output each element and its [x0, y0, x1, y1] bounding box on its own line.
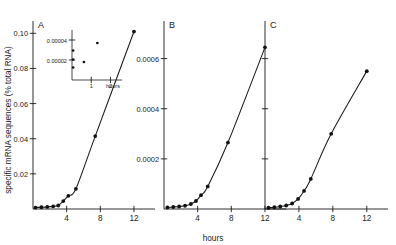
x-axis-title: hours [203, 234, 223, 243]
data-point [329, 132, 333, 136]
x-tick-label: 12 [260, 214, 270, 223]
y-tick-label: 0.08 [14, 64, 28, 73]
data-point [206, 185, 210, 189]
data-point [171, 205, 175, 209]
data-point [51, 204, 55, 208]
data-point [183, 204, 187, 208]
data-point [72, 58, 75, 61]
panel-a-data-points [34, 30, 136, 210]
x-tick-label: 1 [90, 83, 93, 89]
data-point [61, 199, 65, 203]
x-tick-label: 4 [64, 214, 69, 223]
panel-a-inset: 0.000020.00004 12 hours [47, 30, 122, 89]
panel-c-curve [268, 71, 366, 208]
data-point [45, 205, 49, 209]
x-tick-label: 4 [297, 214, 302, 223]
data-point [296, 197, 300, 201]
data-point [189, 202, 193, 206]
data-point [194, 199, 198, 203]
x-tick-label: 12 [362, 214, 372, 223]
data-point [199, 193, 203, 197]
data-point [66, 194, 70, 198]
panel-a: A 0.020.040.060.080.10 4812 [14, 20, 155, 223]
inset-data-points [72, 42, 99, 69]
data-point [272, 205, 276, 209]
y-tick-label: 0.06 [14, 100, 28, 109]
inset-x-axis-title: hours [106, 83, 120, 89]
panel-b-x-ticks: 4812 [195, 206, 270, 223]
data-point [309, 177, 313, 181]
data-point [266, 206, 270, 210]
y-axis-title: specific mRNA sequences (% total RNA) [4, 46, 13, 194]
panel-b-curve [167, 47, 265, 207]
panel-c-label: C [270, 20, 277, 30]
data-point [72, 49, 75, 52]
figure-root: specific mRNA sequences (% total RNA) ho… [0, 0, 396, 245]
x-tick-label: 8 [229, 214, 234, 223]
data-point [56, 204, 60, 208]
panel-a-label: A [38, 20, 44, 30]
y-tick-label: 0.04 [14, 135, 28, 144]
y-tick-label: 0.00002 [47, 58, 67, 64]
panel-b-y-ticks: 0.00020.00040.0006 [136, 55, 167, 164]
data-point [226, 141, 230, 145]
data-point [165, 206, 169, 210]
y-tick-label: 0.0002 [136, 155, 159, 164]
x-tick-label: 8 [331, 214, 336, 223]
panel-a-x-ticks: 4812 [64, 206, 139, 223]
data-point [72, 66, 75, 69]
data-point [96, 42, 99, 45]
data-point [290, 202, 294, 206]
data-point [93, 134, 97, 138]
multi-panel-line-chart: specific mRNA sequences (% total RNA) ho… [0, 0, 396, 245]
x-tick-label: 8 [98, 214, 103, 223]
inset-y-ticks: 0.000020.00004 [47, 38, 75, 64]
data-point [302, 189, 306, 193]
y-tick-label: 0.10 [14, 29, 28, 38]
panel-c-x-ticks: 4812 [297, 206, 372, 223]
x-tick-label: 4 [195, 214, 200, 223]
y-tick-label: 0.0006 [136, 55, 159, 64]
data-point [83, 61, 86, 64]
data-point [177, 205, 181, 209]
panel-b-data-points [165, 45, 266, 209]
data-point [74, 187, 78, 191]
panel-c: C 4812 [262, 20, 388, 223]
data-point [40, 205, 44, 209]
panel-b: B 0.00020.00040.0006 4812 [136, 20, 286, 223]
data-point [284, 204, 288, 208]
y-tick-label: 0.00004 [47, 38, 67, 44]
data-point [278, 205, 282, 209]
data-point [132, 30, 136, 34]
data-point [365, 69, 369, 73]
x-tick-label: 12 [129, 214, 139, 223]
panel-c-data-points [266, 69, 368, 209]
panel-b-label: B [169, 20, 175, 30]
data-point [34, 206, 38, 210]
y-tick-label: 0.02 [14, 170, 28, 179]
y-tick-label: 0.0004 [136, 105, 159, 114]
